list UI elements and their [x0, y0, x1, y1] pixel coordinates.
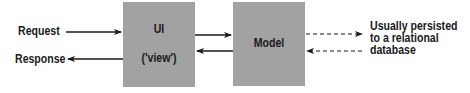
arrows-layer [0, 0, 470, 93]
